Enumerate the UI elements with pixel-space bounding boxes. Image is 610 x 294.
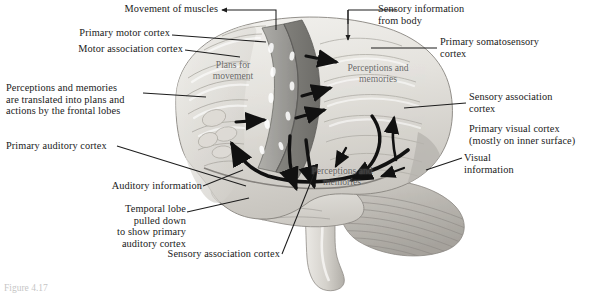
callout-primary-somatosensory-cortex: Primary somatosensory cortex — [440, 36, 600, 59]
callout-movement-of-muscles: Movement of muscles — [4, 3, 218, 15]
callout-motor-association-cortex: Motor association cortex — [4, 43, 183, 55]
surface-label-plans-for-movement: Plans for movement — [194, 60, 272, 81]
figure-caption: Figure 4.17 — [4, 283, 48, 293]
callout-primary-motor-cortex: Primary motor cortex — [4, 27, 170, 39]
callout-sensory-information-from-body: Sensory information from body — [378, 3, 528, 26]
callout-primary-visual-cortex: Primary visual cortex (mostly on inner s… — [469, 123, 610, 146]
brain-function-diagram: Movement of muscles Primary motor cortex… — [0, 0, 610, 294]
callout-sensory-association-cortex-right: Sensory association cortex — [469, 91, 607, 114]
callout-sensory-association-cortex-bottom: Sensory association cortex — [110, 248, 280, 260]
callout-visual-information: Visual information — [464, 152, 554, 175]
callout-primary-auditory-cortex: Primary auditory cortex — [6, 140, 156, 152]
callout-temporal-lobe-pulled-down: Temporal lobe pulled down to show primar… — [60, 203, 186, 249]
callout-frontal-lobes-translation: Perceptions and memories are translated … — [6, 82, 146, 117]
surface-label-perceptions-memories-top: Perceptions and memories — [332, 63, 424, 84]
callout-auditory-information: Auditory information — [60, 180, 202, 192]
flow-arrow-to-motor — [236, 120, 264, 122]
surface-label-perceptions-memories-bottom: Perceptions and memories — [296, 166, 388, 187]
